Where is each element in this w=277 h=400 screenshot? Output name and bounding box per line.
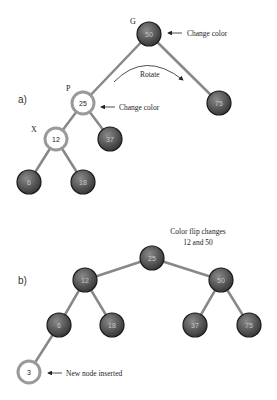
node-value: 37 (191, 322, 199, 329)
part-a: a) Rotate G 50 Change color P 25 C (17, 17, 231, 194)
new-node-label: New node inserted (66, 369, 122, 378)
edge-50-25 (83, 34, 149, 103)
node-b-25: 25 (140, 246, 164, 270)
node-value: 75 (245, 322, 253, 329)
node-tag-x: X (31, 125, 37, 134)
node-value: 3 (27, 369, 31, 376)
node-value: 6 (57, 322, 61, 329)
change-color-g-label: Change color (187, 29, 228, 38)
node-tag-p: P (66, 84, 71, 93)
color-flip-label-line2: 12 and 50 (183, 238, 213, 247)
part-b-label: b) (18, 275, 27, 286)
node-b-37: 37 (183, 313, 207, 337)
node-value: 18 (79, 179, 87, 186)
node-value: 50 (145, 31, 153, 38)
node-a-6: 6 (17, 170, 41, 194)
node-tag-g: G (130, 17, 136, 26)
node-value: 75 (215, 100, 223, 107)
node-b-18: 18 (100, 313, 124, 337)
node-b-12: 12 (73, 268, 97, 292)
node-b-75: 75 (237, 313, 261, 337)
node-value: 50 (217, 277, 225, 284)
node-a-18: 18 (71, 170, 95, 194)
node-value: 37 (106, 136, 114, 143)
node-a-25: P 25 (66, 84, 94, 114)
red-black-tree-diagram: a) Rotate G 50 Change color P 25 C (0, 0, 277, 400)
node-b-50: 50 (209, 268, 233, 292)
color-flip-label-line1: Color flip changes (170, 227, 225, 236)
part-b: b) Color flip changes 12 and 50 25 12 50 (18, 227, 261, 383)
node-value: 12 (81, 277, 89, 284)
rotate-label: Rotate (140, 70, 160, 79)
change-color-p-label: Change color (119, 103, 160, 112)
node-a-37: 37 (98, 127, 122, 151)
node-a-12: X 12 (31, 125, 67, 150)
node-b-6: 6 (47, 313, 71, 337)
node-value: 18 (108, 322, 116, 329)
node-value: 25 (148, 255, 156, 262)
part-a-label: a) (18, 94, 27, 105)
node-value: 25 (79, 100, 87, 107)
node-value: 6 (27, 179, 31, 186)
node-b-3: 3 (18, 361, 40, 383)
node-a-75: 75 (207, 91, 231, 115)
node-value: 12 (52, 136, 60, 143)
edge-50-75 (149, 34, 219, 103)
node-a-50: G 50 (130, 17, 161, 46)
